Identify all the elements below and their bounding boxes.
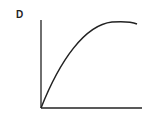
chart-plot: [0, 0, 151, 115]
data-curve: [41, 22, 137, 108]
chart-panel: D: [0, 0, 151, 115]
